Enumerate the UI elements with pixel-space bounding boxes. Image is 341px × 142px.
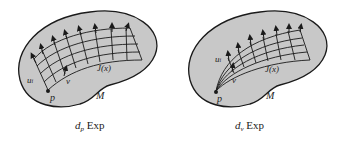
- manifold-M: [189, 11, 327, 107]
- label-p: p: [217, 94, 222, 104]
- label-manifold: M: [96, 91, 104, 101]
- label-u: ui: [27, 76, 33, 85]
- figure-dp-exp: ui v p J(x) M dp Exp: [0, 0, 170, 142]
- label-p: p: [50, 93, 55, 103]
- label-v: v: [232, 76, 236, 85]
- figure-dv-exp: ui v p J(x) M dv Exp: [170, 0, 340, 142]
- label-v: v: [66, 77, 70, 86]
- caption-dp-exp: dp Exp: [75, 119, 104, 131]
- label-u: ui: [215, 55, 221, 64]
- label-jacobi: J(x): [97, 64, 111, 73]
- manifold-M: [19, 11, 157, 107]
- label-manifold: M: [266, 91, 274, 101]
- label-jacobi: J(x): [265, 65, 279, 74]
- caption-dv-exp: dv Exp: [235, 119, 264, 131]
